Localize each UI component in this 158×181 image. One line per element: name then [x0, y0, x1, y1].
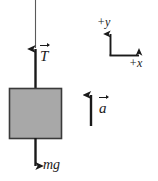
y-axis-label: +y: [97, 16, 110, 28]
tension-label-text: T: [40, 48, 48, 64]
diagram-canvas: [0, 0, 158, 181]
block-rectangle: [10, 89, 62, 139]
acceleration-label-text: a: [99, 100, 107, 116]
weight-label: mg: [43, 158, 60, 172]
vector-arrow-overbar-icon: [99, 97, 108, 98]
x-axis-label: +x: [129, 57, 142, 69]
acceleration-label: a: [99, 101, 107, 116]
weight-label-text: mg: [43, 157, 60, 172]
free-body-diagram: T mg a +y +x: [0, 0, 158, 181]
vector-arrow-overbar-icon: [40, 45, 49, 46]
tension-label: T: [40, 49, 48, 64]
